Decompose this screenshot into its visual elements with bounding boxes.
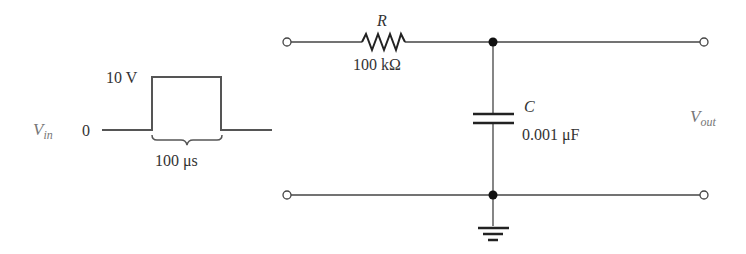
terminal-icons <box>283 38 708 199</box>
pulse-low-label: 0 <box>82 122 90 139</box>
capacitor-icon <box>473 114 514 123</box>
pulse-width-label: 100 μs <box>155 152 198 170</box>
junction-node-top <box>489 38 498 47</box>
rc-circuit-diagram: Vin 0 10 V 100 μs R 100 kΩ C 0.001 μF Vo… <box>0 0 746 254</box>
capacitor-value: 0.001 μF <box>522 126 580 144</box>
vout-label: Vout <box>690 107 716 129</box>
resistor-value: 100 kΩ <box>353 56 401 73</box>
resistor-icon <box>362 34 405 50</box>
pulse-high-label: 10 V <box>106 69 138 86</box>
junction-node-bottom <box>489 191 498 200</box>
vin-label: Vin <box>33 120 53 142</box>
pulse-width-brace-icon <box>152 135 222 145</box>
resistor-symbol: R <box>376 12 387 29</box>
ground-icon <box>478 228 509 240</box>
capacitor-symbol: C <box>524 98 535 115</box>
